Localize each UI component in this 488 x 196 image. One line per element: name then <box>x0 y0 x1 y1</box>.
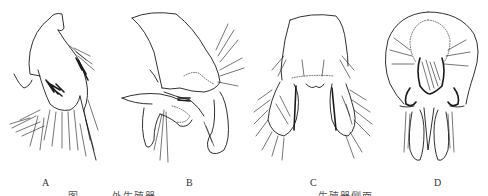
panel-label-b: B <box>186 177 193 188</box>
figure-panel-b <box>120 0 260 175</box>
panel-label-a: A <box>42 177 49 188</box>
panel-label-d: D <box>434 177 441 188</box>
figure-panel-a <box>0 0 130 175</box>
genitalia-drawing-c <box>250 0 380 175</box>
figure-caption-title: 外生殖器 <box>112 188 156 196</box>
genitalia-drawing-d <box>370 0 488 175</box>
genitalia-drawing-b <box>120 0 260 175</box>
figure-panel-c <box>250 0 380 175</box>
figure-caption-right: 生殖器侧面 <box>318 188 373 196</box>
figure-caption-prefix: 图 <box>68 188 79 196</box>
figure-panel-d <box>370 0 488 175</box>
panel-label-c: C <box>310 177 317 188</box>
genitalia-drawing-a <box>0 0 130 175</box>
